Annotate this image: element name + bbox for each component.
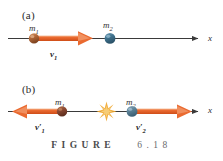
panel-b-velocity2-arrow [133,104,192,118]
panel-b-mass2-ball [127,106,138,117]
panel-a-mass1-ball [29,33,39,43]
figure-caption: FIGURE6.18 [0,140,223,150]
figure-caption-word: FIGURE [51,140,115,150]
collision-starburst-icon [97,101,117,121]
panel-b-velocity1-arrow [12,104,63,118]
figure-drawing [0,0,223,161]
panel-a-velocity1-arrow [36,31,93,45]
panel-b-mass1-ball [57,106,67,116]
figure-container: (a) m1 m2 v1 x (b) m1 m2 v′1 v′2 x [0,0,223,161]
figure-caption-number: 6.18 [137,140,172,150]
panel-a-mass2-ball [105,33,116,44]
